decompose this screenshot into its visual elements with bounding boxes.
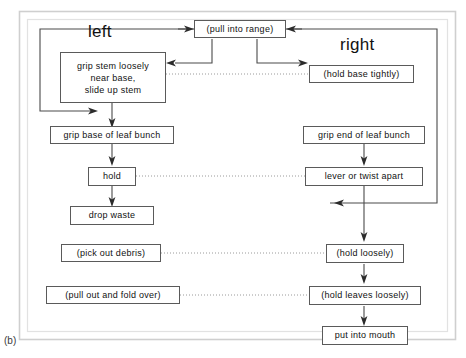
connector-pull-to-hold-base bbox=[257, 39, 308, 66]
connector-gripend-to-lever bbox=[361, 144, 368, 166]
connector-into-pull-into-range-left bbox=[178, 26, 194, 33]
node-hold-leaves-loosely[interactable]: (hold leaves loosely) bbox=[309, 286, 421, 305]
connector-holdloosely-to-holdleaves bbox=[361, 264, 368, 284]
column-title-left: left bbox=[88, 22, 112, 42]
node-hold-base-tightly[interactable]: (hold base tightly) bbox=[309, 65, 414, 83]
node-pull-out-and-fold-over[interactable]: (pull out and fold over) bbox=[46, 286, 180, 304]
connector-into-pull-into-range-right bbox=[286, 26, 302, 33]
node-pick-out-debris[interactable]: (pick out debris) bbox=[61, 244, 161, 262]
node-lever-or-twist-apart[interactable]: lever or twist apart bbox=[305, 167, 423, 186]
node-hold-loosely[interactable]: (hold loosely) bbox=[326, 244, 404, 263]
node-drop-waste[interactable]: drop waste bbox=[70, 206, 154, 225]
connector-hold-to-dropwaste bbox=[109, 186, 116, 207]
connector-holdleaves-to-mouth bbox=[361, 306, 368, 326]
column-title-right: right bbox=[340, 35, 375, 55]
connector-gripbase-to-hold bbox=[109, 144, 116, 166]
connector-lever-to-holdloosely bbox=[361, 186, 368, 242]
node-grip-end-of-leaf-bunch[interactable]: grip end of leaf bunch bbox=[303, 126, 425, 144]
node-put-into-mouth[interactable]: put into mouth bbox=[322, 326, 408, 345]
figure-label: (b) bbox=[4, 335, 16, 346]
node-pull-into-range[interactable]: (pull into range) bbox=[194, 20, 286, 38]
node-grip-stem-loosely[interactable]: grip stem loosely near base, slide up st… bbox=[60, 52, 166, 103]
connector-gripstem-to-gripbase bbox=[109, 103, 116, 128]
node-hold[interactable]: hold bbox=[88, 167, 136, 186]
figure-panel: left right (pull into range) grip stem l… bbox=[0, 0, 466, 358]
node-grip-base-of-leaf-bunch[interactable]: grip base of leaf bunch bbox=[50, 126, 174, 144]
connector-pull-to-grip-stem bbox=[166, 39, 212, 66]
